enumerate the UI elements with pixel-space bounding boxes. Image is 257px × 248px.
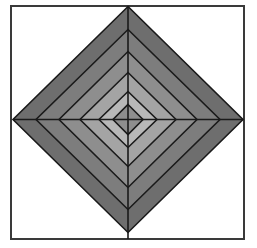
figure-container: Nested concentric diamonds: [0, 0, 257, 248]
nested-diamonds-figure: [0, 0, 257, 248]
